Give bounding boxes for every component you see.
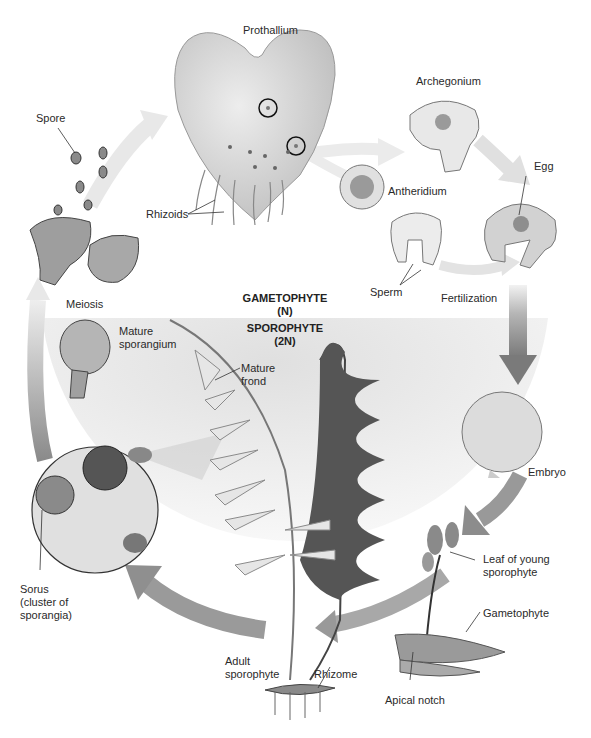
fern-life-cycle-diagram: Prothallium Spore Rhizoids Archegonium A…: [0, 0, 591, 738]
label-leaf-young-sporophyte: Leaf of young sporophyte: [483, 553, 550, 579]
phase-gametophyte-ploidy: (N): [230, 305, 340, 318]
label-prothallium: Prothallium: [243, 24, 298, 37]
label-mature-frond-line2: frond: [241, 375, 275, 388]
label-mature-sporangium-line1: Mature: [119, 325, 176, 338]
label-sorus-line3: sporangia): [20, 609, 72, 622]
label-embryo: Embryo: [528, 466, 566, 479]
label-leaf-young-line2: sporophyte: [483, 566, 550, 579]
label-apical-notch: Apical notch: [385, 694, 445, 707]
label-adult-sporophyte-line1: Adult: [225, 655, 279, 668]
label-fertilization: Fertilization: [441, 292, 497, 305]
label-mature-sporangium-line2: sporangium: [119, 338, 176, 351]
label-meiosis: Meiosis: [66, 298, 103, 311]
archegonium-illustration: [410, 101, 479, 172]
phase-sporophyte-name: SPOROPHYTE: [230, 322, 340, 335]
label-antheridium: Antheridium: [388, 185, 447, 198]
label-mature-frond: Mature frond: [241, 362, 275, 388]
label-spore: Spore: [36, 112, 65, 125]
label-sorus-line1: Sorus: [20, 583, 72, 596]
diagram-artwork: [0, 0, 591, 738]
sperm-release-illustration: [391, 213, 442, 265]
label-egg: Egg: [534, 160, 554, 173]
egg-archegonium-illustration: [484, 204, 556, 268]
label-rhizoids: Rhizoids: [146, 208, 188, 221]
label-leaf-young-line1: Leaf of young: [483, 553, 550, 566]
label-mature-sporangium: Mature sporangium: [119, 325, 176, 351]
open-sporangium-illustration: [30, 218, 139, 286]
phase-sporophyte-ploidy: (2N): [230, 335, 340, 348]
label-mature-frond-line1: Mature: [241, 362, 275, 375]
label-adult-sporophyte: Adult sporophyte: [225, 655, 279, 681]
label-adult-sporophyte-line2: sporophyte: [225, 668, 279, 681]
phase-gametophyte-name: GAMETOPHYTE: [230, 292, 340, 305]
label-gametophyte: Gametophyte: [483, 607, 549, 620]
label-rhizome: Rhizome: [314, 668, 357, 681]
phase-sporophyte: SPOROPHYTE (2N): [230, 322, 340, 348]
prothallium-illustration: [175, 30, 335, 225]
antheridium-illustration: [340, 165, 384, 209]
phase-gametophyte: GAMETOPHYTE (N): [230, 292, 340, 318]
label-sorus-line2: (cluster of: [20, 596, 72, 609]
label-sperm: Sperm: [370, 286, 402, 299]
label-archegonium: Archegonium: [416, 75, 481, 88]
label-sorus: Sorus (cluster of sporangia): [20, 583, 72, 622]
